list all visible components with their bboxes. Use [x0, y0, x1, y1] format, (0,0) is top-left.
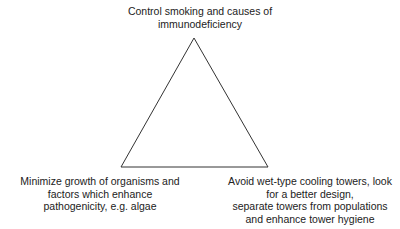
bottom-right-label-line: for a better design, [220, 188, 400, 201]
top-vertex-label: Control smoking and causes of immunodefi… [100, 5, 300, 30]
bottom-right-label-line: separate towers from populations [220, 200, 400, 213]
bottom-right-label-line: and enhance tower hygiene [220, 213, 400, 226]
bottom-left-label-line: Minimize growth of organisms and [0, 175, 200, 188]
bottom-left-label-line: factors which enhance [0, 188, 200, 201]
bottom-right-vertex-label: Avoid wet-type cooling towers, look for … [220, 175, 400, 225]
triangle-shape [121, 38, 268, 167]
bottom-left-label-line: pathogenicity, e.g. algae [0, 200, 200, 213]
bottom-left-vertex-label: Minimize growth of organisms and factors… [0, 175, 200, 213]
top-label-line: immunodeficiency [100, 18, 300, 31]
top-label-line: Control smoking and causes of [100, 5, 300, 18]
bottom-right-label-line: Avoid wet-type cooling towers, look [220, 175, 400, 188]
